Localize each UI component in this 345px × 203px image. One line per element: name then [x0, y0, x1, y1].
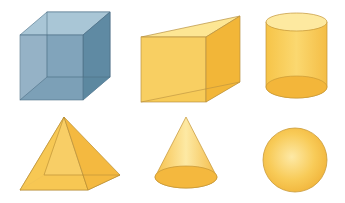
cube: [20, 12, 110, 100]
shapes-diagram: [0, 0, 345, 203]
triangular-prism: [141, 16, 240, 102]
sphere: [263, 128, 327, 192]
cone: [155, 117, 217, 188]
cylinder: [266, 13, 327, 98]
square-pyramid: [20, 117, 120, 190]
